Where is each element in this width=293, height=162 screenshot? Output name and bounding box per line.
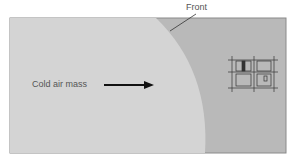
front-label: Front <box>186 2 207 12</box>
cold-air-mass-label: Cold air mass <box>32 79 87 89</box>
